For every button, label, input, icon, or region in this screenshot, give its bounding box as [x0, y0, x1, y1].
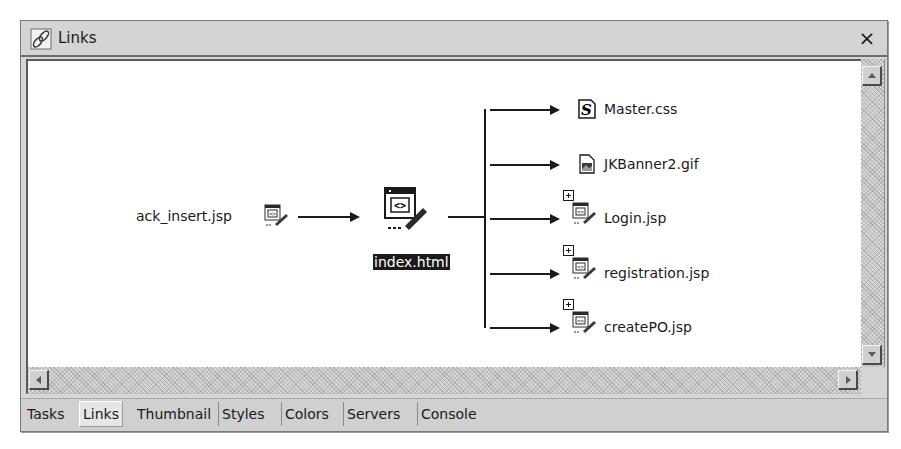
connector-line — [490, 327, 552, 329]
connector-line — [490, 273, 552, 275]
gif-image-icon[interactable] — [579, 154, 595, 174]
links-diagram-canvas[interactable]: ack_insert.jsp <> <> index.html — [26, 59, 861, 367]
css-stylesheet-icon[interactable]: S — [578, 99, 596, 119]
view-tab-bar: Tasks Links Thumbnail Styles Colors Serv… — [21, 398, 887, 431]
svg-text:<>: <> — [394, 200, 406, 211]
expand-toggle-icon[interactable] — [563, 299, 574, 310]
arrow-head — [550, 214, 560, 224]
arrow-up-icon — [868, 73, 876, 78]
arrow-right-icon — [846, 376, 851, 384]
connector-line — [490, 164, 552, 166]
expand-toggle-icon[interactable] — [563, 190, 574, 201]
scrollbar-corner — [861, 367, 885, 394]
connector-line — [448, 216, 485, 218]
tab-styles[interactable]: Styles — [218, 402, 267, 426]
svg-text:<>: <> — [577, 317, 585, 324]
window-title: Links — [58, 29, 97, 47]
tab-colors[interactable]: Colors — [281, 402, 332, 426]
tab-console[interactable]: Console — [417, 402, 480, 426]
scroll-left-button[interactable] — [29, 370, 49, 390]
links-chain-icon — [30, 28, 52, 50]
outgoing-node-label[interactable]: registration.jsp — [604, 265, 709, 281]
title-bar: Links × — [21, 21, 887, 57]
connector-line — [298, 216, 352, 218]
links-view-panel: Links × ack_insert.jsp <> <> index.htm — [20, 20, 888, 432]
outgoing-node-label[interactable]: JKBanner2.gif — [604, 156, 699, 172]
arrow-down-icon — [868, 352, 876, 357]
arrow-head — [550, 269, 560, 279]
connector-trunk — [484, 109, 486, 328]
svg-text:<>: <> — [577, 263, 585, 270]
arrow-head — [350, 212, 360, 222]
outgoing-node-label[interactable]: Login.jsp — [604, 210, 666, 226]
outgoing-node-label[interactable]: Master.css — [604, 101, 677, 117]
connector-line — [490, 218, 552, 220]
horizontal-scrollbar[interactable] — [26, 367, 861, 394]
close-icon: × — [859, 26, 876, 50]
tab-thumbnail[interactable]: Thumbnail — [134, 402, 214, 426]
arrow-head — [550, 323, 560, 333]
arrow-left-icon — [36, 376, 41, 384]
connector-line — [490, 109, 552, 111]
selected-node-label[interactable]: index.html — [373, 254, 450, 270]
tab-links[interactable]: Links — [79, 401, 123, 427]
tab-servers[interactable]: Servers — [343, 402, 403, 426]
jsp-page-icon[interactable]: <> — [264, 204, 290, 228]
svg-text:S: S — [581, 101, 592, 119]
vertical-scrollbar[interactable] — [861, 59, 885, 367]
tab-tasks[interactable]: Tasks — [24, 402, 68, 426]
html-page-icon[interactable]: <> — [383, 186, 429, 232]
outgoing-node-label[interactable]: createPO.jsp — [604, 319, 692, 335]
scroll-up-button[interactable] — [862, 66, 882, 86]
incoming-node-label[interactable]: ack_insert.jsp — [136, 208, 232, 224]
arrow-head — [550, 105, 560, 115]
jsp-page-icon[interactable]: <> — [572, 202, 598, 226]
svg-text:<>: <> — [577, 208, 585, 215]
svg-text:<>: <> — [269, 210, 277, 217]
jsp-page-icon[interactable]: <> — [572, 257, 598, 281]
arrow-head — [550, 160, 560, 170]
close-button[interactable]: × — [856, 27, 878, 49]
scroll-down-button[interactable] — [862, 345, 882, 365]
expand-toggle-icon[interactable] — [563, 245, 574, 256]
jsp-page-icon[interactable]: <> — [572, 311, 598, 335]
scroll-right-button[interactable] — [838, 370, 858, 390]
